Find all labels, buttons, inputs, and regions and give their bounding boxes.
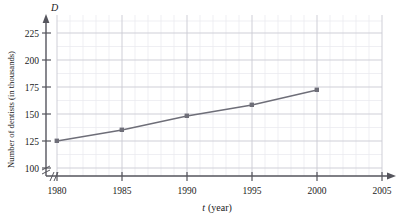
x-tick-label-1990: 1990 [178,186,197,196]
y-axis [43,14,50,176]
x-tick-label-2000: 2000 [308,186,327,196]
data-point-2000 [315,88,319,92]
x-tick-label-1985: 1985 [113,186,132,196]
minor-gridlines-vertical [70,15,369,176]
y-tick-label-150: 150 [25,110,40,120]
y-tick-label-175: 175 [25,83,40,93]
x-tick-label-1980: 1980 [48,186,67,196]
x-axis-symbol-label: t [202,202,205,213]
data-point-1980 [55,139,59,143]
y-axis-title: Number of dentists (in thousands) [6,51,16,168]
chart-svg: 225 200 175 150 125 100 1980 1985 1990 1… [0,0,401,216]
x-axis [46,173,396,180]
dentists-line-chart: 225 200 175 150 125 100 1980 1985 1990 1… [0,0,401,216]
x-tick-label-2005: 2005 [373,186,392,196]
x-axis-title: t (year) [202,202,232,214]
y-tick-label-200: 200 [25,56,40,66]
data-point-1985 [120,128,124,132]
y-tick-label-225: 225 [25,29,40,39]
x-tick-label-1995: 1995 [243,186,262,196]
data-point-1995 [250,103,254,107]
minor-gridlines-horizontal [57,21,382,155]
x-axis-unit-label: (year) [208,202,232,214]
major-gridlines-vertical [57,15,382,176]
y-axis-symbol-label: D [50,2,59,13]
data-point-1990 [185,114,189,118]
y-tick-label-100: 100 [25,164,40,174]
y-tick-label-125: 125 [25,137,40,147]
